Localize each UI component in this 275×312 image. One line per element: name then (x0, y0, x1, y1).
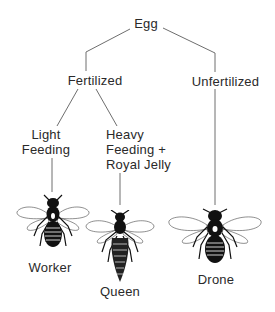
queen-label: Queen (90, 284, 150, 299)
worker-label: Worker (20, 260, 80, 275)
drone-label: Drone (186, 272, 246, 287)
queen-bee-icon (84, 210, 156, 284)
connector-egg-unfertilized (163, 28, 215, 72)
connector-egg-fertilized (86, 29, 130, 71)
connector-fertilized-heavy (96, 89, 117, 126)
connector-fertilized-light (57, 89, 78, 126)
light-feeding-label: Light Feeding (16, 127, 76, 157)
drone-bee-icon (167, 207, 263, 267)
heavy-feeding-label: Heavy Feeding + Royal Jelly (106, 127, 171, 172)
fertilized-label: Fertilized (60, 73, 130, 88)
egg-label: Egg (126, 16, 166, 31)
unfertilized-label: Unfertilized (188, 74, 263, 89)
worker-bee-icon (14, 194, 92, 256)
